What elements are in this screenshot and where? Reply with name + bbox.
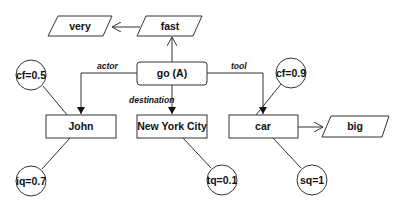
- node-cf05-label: cf=0.5: [16, 69, 46, 81]
- node-go[interactable]: go (A): [137, 62, 207, 85]
- edge-label-tool: tool: [231, 61, 247, 71]
- edge-actor: [81, 73, 137, 114]
- link-cf09-car: [256, 84, 281, 115]
- node-cf09-label: cf=0.9: [276, 67, 306, 79]
- node-cf09[interactable]: cf=0.9: [276, 58, 306, 88]
- node-iq07-label: iq=0.7: [16, 175, 46, 187]
- node-go-label: go (A): [157, 67, 187, 79]
- node-fast[interactable]: fast: [137, 16, 202, 36]
- node-new-york-city[interactable]: New York City: [137, 115, 207, 138]
- edge-label-destination: destination: [129, 95, 174, 105]
- node-big-label: big: [347, 120, 363, 132]
- node-fast-label: fast: [161, 20, 180, 32]
- link-john-iq07: [42, 138, 70, 169]
- node-tq01-label: tq=0.1: [207, 174, 238, 186]
- link-cf05-john: [43, 86, 68, 116]
- node-iq07[interactable]: iq=0.7: [16, 166, 46, 196]
- node-cf05[interactable]: cf=0.5: [16, 60, 46, 90]
- node-car[interactable]: car: [229, 115, 298, 138]
- node-car-label: car: [255, 120, 271, 132]
- node-nyc-label: New York City: [137, 120, 207, 132]
- node-big[interactable]: big: [322, 116, 389, 137]
- link-nyc-tq01: [183, 138, 211, 168]
- edge-label-actor: actor: [97, 61, 118, 71]
- node-very-label: very: [69, 20, 91, 32]
- node-sq1[interactable]: sq=1: [297, 165, 327, 195]
- node-john[interactable]: John: [46, 115, 116, 138]
- node-sq1-label: sq=1: [300, 174, 324, 186]
- node-very[interactable]: very: [48, 16, 112, 36]
- edge-tool: [207, 73, 263, 114]
- link-car-sq1: [273, 138, 301, 168]
- node-tq01[interactable]: tq=0.1: [207, 165, 238, 195]
- node-john-label: John: [68, 120, 93, 132]
- conceptual-graph-diagram: very fast go (A) John New York City car …: [0, 0, 402, 209]
